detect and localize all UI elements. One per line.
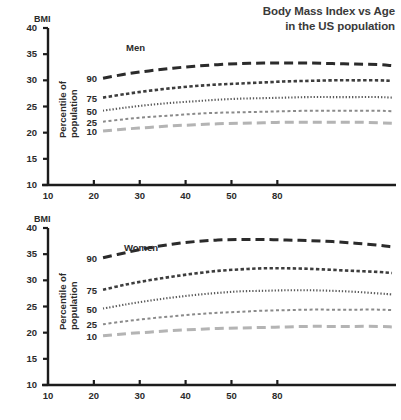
- series-line-p75: [103, 268, 392, 290]
- y-tick-label: 10: [15, 379, 37, 390]
- series-line-p10: [103, 326, 392, 335]
- series-line-p50: [103, 290, 392, 308]
- x-tick-label: 80: [265, 390, 289, 401]
- x-tick-label: 40: [174, 190, 198, 201]
- percentile-label-10: 10: [79, 331, 97, 342]
- percentile-label-75: 75: [79, 285, 97, 296]
- x-tick-label: 30: [128, 190, 152, 201]
- x-tick-label: 40: [174, 390, 198, 401]
- percentile-label-90: 90: [79, 253, 97, 264]
- y-tick-label: 15: [15, 353, 37, 364]
- series-line-p10: [103, 122, 392, 131]
- panel-label-women: Women: [124, 242, 158, 253]
- x-tick-label: 30: [128, 390, 152, 401]
- x-tick-label: 20: [82, 190, 106, 201]
- panel-women: BMI Women 403530252015101020304050809075…: [0, 210, 401, 420]
- percentile-label-75: 75: [79, 93, 97, 104]
- percentile-axis-title: population: [68, 281, 79, 330]
- percentile-axis-title: Percentile of: [57, 273, 68, 330]
- percentile-axis-title: population: [68, 89, 79, 138]
- y-tick-label: 15: [15, 153, 37, 164]
- y-tick-label: 10: [15, 179, 37, 190]
- y-tick-label: 25: [15, 101, 37, 112]
- bmi-vs-age-figure: Body Mass Index vs Age in the US populat…: [0, 0, 401, 420]
- x-tick-label: 80: [265, 190, 289, 201]
- percentile-label-90: 90: [79, 73, 97, 84]
- x-tick-label: 10: [36, 190, 60, 201]
- panel-label-men: Men: [126, 42, 145, 53]
- y-tick-label: 30: [15, 74, 37, 85]
- x-tick-label: 50: [219, 190, 243, 201]
- y-tick-label: 20: [15, 127, 37, 138]
- percentile-label-10: 10: [79, 126, 97, 137]
- y-tick-label: 40: [15, 222, 37, 233]
- x-tick-label: 20: [82, 390, 106, 401]
- series-line-p50: [103, 97, 392, 111]
- panel-men: BMI Men 40353025201510102030405080907550…: [0, 0, 401, 210]
- y-tick-label: 35: [15, 248, 37, 259]
- x-tick-label: 10: [36, 390, 60, 401]
- series-line-p90: [103, 63, 392, 78]
- y-tick-label: 35: [15, 48, 37, 59]
- y-tick-label: 25: [15, 301, 37, 312]
- series-line-p25: [103, 310, 392, 325]
- y-tick-label: 30: [15, 274, 37, 285]
- y-tick-label: 40: [15, 22, 37, 33]
- y-tick-label: 20: [15, 327, 37, 338]
- percentile-label-50: 50: [79, 106, 97, 117]
- percentile-label-50: 50: [79, 304, 97, 315]
- percentile-axis-title: Percentile of: [57, 81, 68, 138]
- percentile-label-25: 25: [79, 319, 97, 330]
- x-tick-label: 50: [219, 390, 243, 401]
- series-line-p25: [103, 111, 392, 122]
- series-line-p75: [103, 80, 392, 97]
